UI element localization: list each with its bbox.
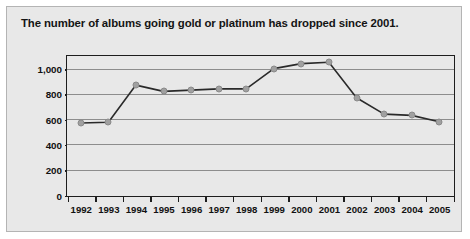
x-tick-label: 1999 [264, 204, 285, 215]
x-tick-label: 1993 [98, 204, 119, 215]
x-tick-mark [454, 197, 456, 202]
data-point [188, 87, 195, 94]
x-tick-mark [316, 197, 318, 202]
x-axis-ticks: 1992199319941995199619971998199920002001… [66, 197, 455, 237]
y-axis-ticks: 02004006008001,000 [14, 55, 62, 197]
data-point [215, 85, 222, 92]
data-point [353, 94, 360, 101]
y-tick-label: 200 [16, 165, 62, 176]
data-point [132, 82, 139, 89]
x-tick-mark [426, 197, 428, 202]
x-tick-mark [343, 197, 345, 202]
x-tick-mark [288, 197, 290, 202]
x-tick-mark [398, 197, 400, 202]
x-tick-mark [150, 197, 152, 202]
x-tick-label: 2000 [291, 204, 312, 215]
x-tick-mark [205, 197, 207, 202]
series-line [67, 56, 453, 195]
data-point [436, 118, 443, 125]
data-point [243, 85, 250, 92]
x-tick-label: 1996 [181, 204, 202, 215]
data-point [325, 59, 332, 66]
y-tick-label: 0 [16, 190, 62, 201]
x-tick-mark [261, 197, 263, 202]
data-point [270, 65, 277, 72]
y-tick-label: 600 [16, 114, 62, 125]
x-tick-label: 2004 [401, 204, 422, 215]
y-tick-label: 400 [16, 139, 62, 150]
x-tick-label: 1995 [153, 204, 174, 215]
data-point [381, 111, 388, 118]
y-tick-label: 1,000 [16, 64, 62, 75]
x-tick-label: 1992 [71, 204, 92, 215]
chart-title: The number of albums going gold or plati… [21, 16, 441, 30]
data-point [408, 112, 415, 119]
x-tick-mark [95, 197, 97, 202]
plot-area [66, 55, 455, 197]
y-tick-label: 800 [16, 89, 62, 100]
data-point [160, 88, 167, 95]
chart-figure: The number of albums going gold or plati… [6, 6, 462, 232]
x-tick-label: 1994 [126, 204, 147, 215]
x-tick-mark [123, 197, 125, 202]
data-point [105, 119, 112, 126]
x-tick-mark [371, 197, 373, 202]
x-tick-label: 2005 [429, 204, 450, 215]
x-tick-label: 2003 [374, 204, 395, 215]
x-tick-label: 1997 [208, 204, 229, 215]
data-point [77, 119, 84, 126]
x-tick-label: 2001 [319, 204, 340, 215]
x-tick-label: 2002 [346, 204, 367, 215]
data-point [298, 60, 305, 67]
x-tick-mark [68, 197, 70, 202]
x-tick-mark [233, 197, 235, 202]
x-tick-mark [178, 197, 180, 202]
x-tick-label: 1998 [236, 204, 257, 215]
